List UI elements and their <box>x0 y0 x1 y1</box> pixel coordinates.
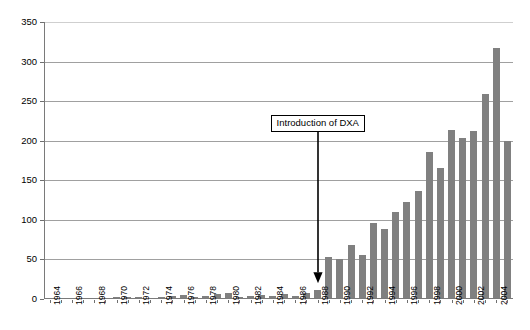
x-axis-tick-mark <box>195 300 196 303</box>
bar-chart: 050100150200250300350 196419661968197019… <box>0 0 530 330</box>
x-axis-tick-mark <box>150 300 151 303</box>
x-axis-tick-mark <box>61 300 62 303</box>
x-axis-tick-mark <box>429 300 430 303</box>
y-axis-tick-label: 50 <box>26 255 37 265</box>
x-axis-tick-mark <box>318 300 319 303</box>
x-axis-tick-mark <box>94 300 95 303</box>
x-axis-tick-mark <box>340 300 341 303</box>
x-axis-tick-mark <box>295 300 296 303</box>
x-axis-tick-mark <box>72 300 73 303</box>
y-axis-tick-label: 300 <box>21 57 37 67</box>
x-axis-tick-mark <box>362 300 363 303</box>
x-axis-tick-mark <box>306 300 307 303</box>
y-axis-tick-label: 200 <box>21 136 37 146</box>
y-axis-tick-label: 0 <box>32 294 37 304</box>
x-axis-tick-mark <box>385 300 386 303</box>
x-axis-tick-mark <box>206 300 207 303</box>
x-axis-tick-mark <box>329 300 330 303</box>
x-axis-tick-mark <box>485 300 486 303</box>
y-axis: 050100150200250300350 <box>0 0 44 330</box>
annotation-label-introduction-of-dxa: Introduction of DXA <box>271 115 365 132</box>
x-axis-tick-mark <box>239 300 240 303</box>
x-axis-tick-mark <box>373 300 374 303</box>
x-axis-tick-mark <box>440 300 441 303</box>
x-axis-tick-mark <box>507 300 508 303</box>
annotation-arrow-icon <box>311 131 325 283</box>
x-axis-tick-mark <box>117 300 118 303</box>
x-axis-tick-mark <box>463 300 464 303</box>
y-axis-tick-label: 150 <box>21 176 37 186</box>
x-axis-tick-mark <box>474 300 475 303</box>
x-axis-tick-mark <box>184 300 185 303</box>
plot-frame <box>44 22 513 299</box>
y-axis-tick-label: 100 <box>21 215 37 225</box>
x-axis-tick-mark <box>161 300 162 303</box>
x-axis-tick-mark <box>262 300 263 303</box>
x-axis-tick-mark <box>217 300 218 303</box>
x-axis-tick-mark <box>50 300 51 303</box>
x-axis-tick-mark <box>496 300 497 303</box>
x-axis-tick-mark <box>251 300 252 303</box>
x-axis-tick-mark <box>418 300 419 303</box>
x-axis-tick-mark <box>273 300 274 303</box>
x-axis-tick-mark <box>105 300 106 303</box>
x-axis-tick-mark <box>128 300 129 303</box>
x-axis-tick-mark <box>172 300 173 303</box>
x-axis-tick-mark <box>452 300 453 303</box>
plot-area <box>44 22 513 299</box>
y-axis-tick-label: 250 <box>21 96 37 106</box>
x-axis: 1964196619681970197219741976197819801982… <box>44 300 513 330</box>
x-axis-tick-mark <box>396 300 397 303</box>
x-axis-tick-mark <box>407 300 408 303</box>
x-axis-tick-mark <box>139 300 140 303</box>
x-axis-tick-mark <box>228 300 229 303</box>
x-axis-tick-mark <box>284 300 285 303</box>
x-axis-tick-mark <box>83 300 84 303</box>
y-axis-tick-label: 350 <box>21 17 37 27</box>
x-axis-tick-mark <box>351 300 352 303</box>
